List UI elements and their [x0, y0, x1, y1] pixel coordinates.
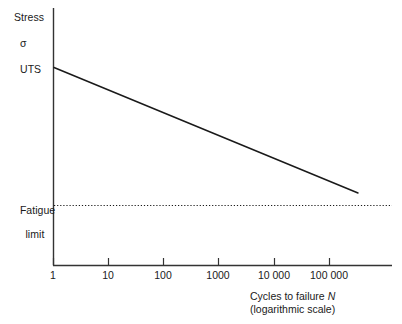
- x-tick-label-10: 10: [88, 269, 128, 281]
- x-axis-title: Cycles to failure N (logarithmic scale): [250, 290, 396, 316]
- x-axis-title-line1: Cycles to failure N: [250, 290, 396, 303]
- x-axis-title-prefix: Cycles to failure: [250, 290, 328, 302]
- x-axis-title-symbol-n: N: [328, 290, 336, 302]
- stress-axis-label: Stress: [14, 11, 60, 23]
- x-tick-label-10000: 10 000: [249, 269, 299, 281]
- sigma-symbol-label: σ: [20, 37, 40, 49]
- fatigue-limit-label-line2: limit: [25, 228, 44, 240]
- x-tick-label-100000: 100 000: [303, 269, 355, 281]
- x-axis-title-line2: (logarithmic scale): [250, 303, 396, 316]
- x-tick-label-1000: 1000: [198, 269, 238, 281]
- sn-fatigue-curve-figure: Stress σ UTS Fatigue limit 1 10 100 1000…: [0, 0, 402, 324]
- sn-curve-line: [54, 68, 358, 194]
- x-axis-ticks: [54, 258, 330, 265]
- uts-label: UTS: [20, 63, 50, 75]
- x-tick-label-1: 1: [33, 269, 73, 281]
- x-tick-label-100: 100: [143, 269, 183, 281]
- fatigue-limit-label: Fatigue limit: [8, 192, 50, 252]
- fatigue-limit-label-line1: Fatigue: [20, 204, 55, 216]
